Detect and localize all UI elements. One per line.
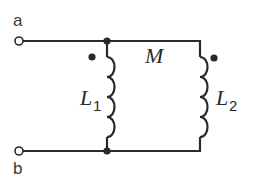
- inductor-l2-subscript: 2: [229, 97, 237, 114]
- inductor-l2-symbol: L: [215, 85, 228, 110]
- inductor-l1-subscript: 1: [93, 97, 101, 114]
- terminal-b-label: b: [13, 159, 22, 178]
- inductor-l1-coil: [107, 57, 115, 137]
- l1-polarity-dot: [88, 53, 95, 60]
- top-junction-node: [103, 37, 110, 44]
- terminal-b: [15, 147, 23, 155]
- inductor-l1-symbol: L: [79, 85, 92, 110]
- terminal-a-label: a: [13, 11, 23, 30]
- terminal-a: [15, 37, 23, 45]
- mutual-inductance-label: M: [144, 43, 165, 68]
- l2-polarity-dot: [210, 54, 217, 61]
- bottom-junction-node: [103, 147, 110, 154]
- circuit-diagram: a b M L 1 L 2: [0, 0, 260, 187]
- inductor-l2-coil: [200, 57, 208, 137]
